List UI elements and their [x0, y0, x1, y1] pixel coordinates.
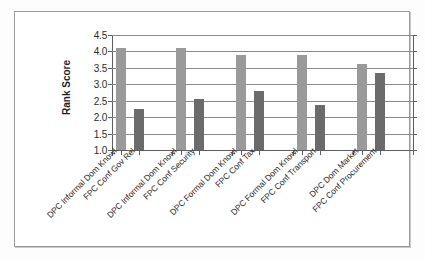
x-axis-group-tick	[413, 151, 414, 155]
bar	[236, 55, 246, 150]
y-axis-tick-label: 4.5	[94, 30, 107, 41]
bar	[254, 91, 264, 150]
bar	[176, 48, 186, 150]
x-axis-tick	[320, 151, 321, 155]
y-axis-tick-right	[413, 101, 417, 102]
y-axis-tick-right	[413, 117, 417, 118]
bar	[194, 99, 204, 150]
x-axis-tick	[380, 151, 381, 155]
y-axis-tick-label: 3.0	[94, 79, 107, 90]
x-axis-group-tick	[112, 151, 113, 155]
x-axis-group-tick	[172, 151, 173, 155]
x-axis-tick	[302, 151, 303, 155]
x-axis-group-tick	[293, 151, 294, 155]
bar	[116, 48, 126, 150]
chart-figure: Rank Score 4.54.03.53.02.52.01.51.0 DPC …	[0, 0, 425, 261]
gridline	[112, 51, 413, 52]
y-axis-tick-label: 1.0	[94, 145, 107, 156]
bar	[297, 55, 307, 150]
x-axis-group-tick	[353, 151, 354, 155]
x-axis-tick	[259, 151, 260, 155]
y-axis-title: Rank Score	[59, 54, 73, 120]
x-axis-tick	[121, 151, 122, 155]
y-axis-tick-label: 4.0	[94, 46, 107, 57]
bar	[375, 73, 385, 150]
x-axis-group-tick	[232, 151, 233, 155]
y-axis-tick	[108, 117, 112, 118]
y-axis-tick	[108, 101, 112, 102]
gridline	[112, 68, 413, 69]
bar	[357, 64, 367, 150]
y-axis-tick-right	[413, 134, 417, 135]
bar	[315, 105, 325, 150]
x-axis-tick	[139, 151, 140, 155]
x-axis-ticks	[112, 151, 414, 156]
y-axis-tick-right	[413, 68, 417, 69]
y-axis-tick-right	[413, 51, 417, 52]
plot-area	[112, 35, 413, 150]
x-axis-tick	[199, 151, 200, 155]
y-axis-tick-label: 2.0	[94, 112, 107, 123]
y-axis-tick-labels: 4.54.03.53.02.52.01.51.0	[77, 35, 107, 150]
x-axis-tick	[362, 151, 363, 155]
bar	[134, 109, 144, 150]
x-axis-tick	[241, 151, 242, 155]
x-axis-tick	[181, 151, 182, 155]
y-axis-tick-right	[413, 35, 417, 36]
gridline	[112, 84, 413, 85]
y-axis-tick-label: 2.5	[94, 95, 107, 106]
y-axis-tick-label: 3.5	[94, 62, 107, 73]
y-axis-tick	[108, 51, 112, 52]
y-axis-tick	[108, 84, 112, 85]
y-axis-tick	[108, 35, 112, 36]
y-axis-tick-label: 1.5	[94, 128, 107, 139]
y-axis-tick	[108, 134, 112, 135]
y-axis-tick	[108, 68, 112, 69]
gridline	[112, 35, 413, 36]
y-axis-tick-right	[413, 84, 417, 85]
chart-frame: Rank Score 4.54.03.53.02.52.01.51.0	[14, 11, 410, 247]
